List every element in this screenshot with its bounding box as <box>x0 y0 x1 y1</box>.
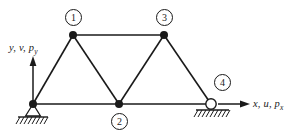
node-label-3: 3 <box>156 9 173 26</box>
left-base-node-dot <box>29 100 37 108</box>
x-axis-label-text: x, u, p <box>253 98 280 109</box>
pinned-support-hatching <box>16 117 48 124</box>
truss-drawing-canvas <box>0 0 295 135</box>
node-label-4: 4 <box>214 74 231 91</box>
node-2-dot <box>115 100 123 108</box>
x-axis-label: x, u, px <box>253 98 284 112</box>
node-4-roller-circle <box>206 99 216 109</box>
y-axis-arrow-head <box>30 56 37 66</box>
node-label-1: 1 <box>65 9 82 26</box>
roller-support-hatching <box>194 110 230 117</box>
node-3-dot <box>160 31 168 39</box>
x-axis-arrow-head <box>240 101 250 108</box>
y-axis-label: y, v, py <box>9 42 38 56</box>
truss-diagram: 1 2 3 4 y, v, py x, u, px <box>0 0 295 135</box>
node-label-2: 2 <box>111 113 128 130</box>
node-1-dot <box>69 31 77 39</box>
x-axis-label-subscript: x <box>280 103 284 112</box>
member-node2-node3 <box>119 35 164 104</box>
member-node1-node2 <box>73 35 119 104</box>
y-axis-label-text: y, v, p <box>9 42 34 53</box>
y-axis-label-subscript: y <box>34 47 38 56</box>
member-node3-node4 <box>164 35 211 104</box>
member-left-diagonal <box>33 35 73 104</box>
